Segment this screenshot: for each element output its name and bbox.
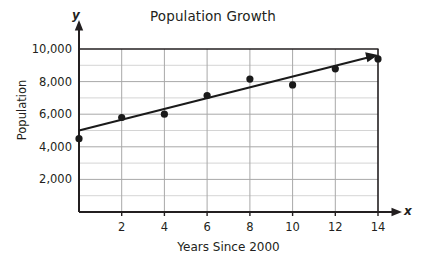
x-tick-label: 12 [315, 220, 355, 234]
x-axis-letter: x [404, 204, 412, 218]
y-tick-label: 2,000 [0, 172, 72, 186]
y-tick-label: 4,000 [0, 140, 72, 154]
data-point [204, 92, 211, 99]
x-tick-label: 10 [273, 220, 313, 234]
x-tick-label: 8 [230, 220, 270, 234]
y-axis-letter: y [72, 8, 80, 22]
data-point [289, 81, 296, 88]
minor-gridlines [79, 65, 378, 195]
x-axis [79, 208, 402, 216]
data-point [374, 55, 381, 62]
x-tick-label: 4 [144, 220, 184, 234]
data-point [161, 111, 168, 118]
x-axis-title: Years Since 2000 [79, 240, 378, 254]
data-point [75, 135, 82, 142]
population-growth-chart: Population Growth [0, 0, 426, 267]
y-tick-label: 10,000 [0, 42, 72, 56]
data-point [332, 65, 339, 72]
x-tick-label: 6 [187, 220, 227, 234]
data-point [246, 76, 253, 83]
data-point [118, 114, 125, 121]
y-tick-label: 8,000 [0, 75, 72, 89]
y-tick-label: 6,000 [0, 107, 72, 121]
x-tick-label: 2 [102, 220, 142, 234]
y-axis-title: Population [15, 50, 29, 170]
x-tick-label: 14 [358, 220, 398, 234]
